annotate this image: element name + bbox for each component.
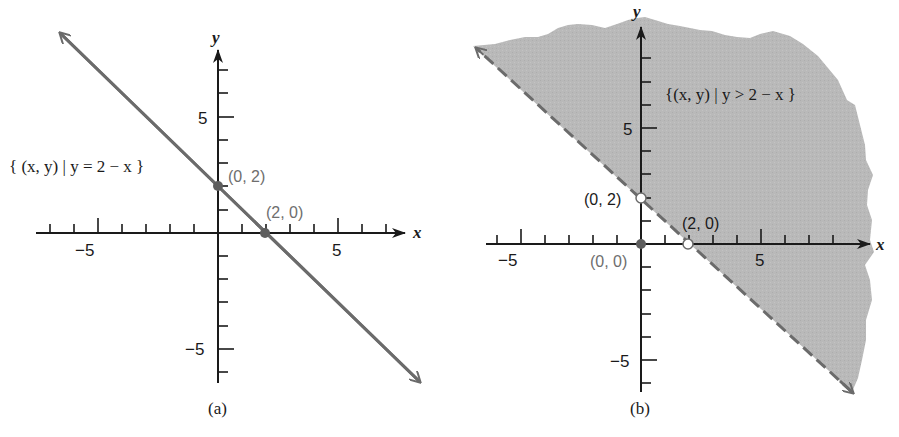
line-arrow-end [60,33,420,382]
set-label-equation: { (x, y) | y = 2 − x } [9,157,144,176]
y-axis-label: y [210,28,220,47]
shaded-region [473,17,874,392]
y-tick-label-5: 5 [623,120,632,139]
point-label-0-0: (0, 0) [590,253,627,270]
y-axis-label: y [631,2,641,21]
y-tick-label-neg5: −5 [610,352,629,371]
point-label-2-0: (2, 0) [266,204,303,221]
y-tick-label-5: 5 [198,109,207,128]
figure-canvas: −5 5 5 −5 y x (0, 2) (2, 0) { (x, y) | y… [0,0,899,437]
caption-b: (b) [630,399,650,418]
x-tick-label-neg5: −5 [498,251,517,270]
x-tick-label-5: 5 [755,251,764,270]
x-tick-label-neg5: −5 [75,241,94,260]
x-tick-label-5: 5 [332,241,341,260]
open-point-0-2 [636,193,646,203]
figure-a: −5 5 5 −5 y x (0, 2) (2, 0) { (x, y) | y… [9,28,422,418]
point-0-2 [213,181,223,191]
figure-b: −5 5 5 −5 y x (0, 2) (2, 0) (0, 0) {(x, … [473,2,885,418]
test-point-0-0 [636,239,646,249]
x-axis-label: x [412,223,422,242]
open-point-2-0 [683,239,693,249]
set-label-inequality: {(x, y) | y > 2 − x } [665,85,796,104]
y-ticks [218,70,234,372]
point-label-0-2: (0, 2) [584,191,621,208]
point-2-0 [260,228,270,238]
point-label-2-0: (2, 0) [682,215,719,232]
x-axis-label: x [875,235,885,254]
point-label-0-2: (0, 2) [228,168,265,185]
y-tick-label-neg5: −5 [185,340,204,359]
caption-a: (a) [208,399,227,418]
